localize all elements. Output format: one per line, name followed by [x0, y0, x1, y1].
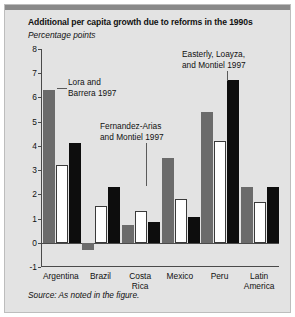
bar-group	[200, 49, 240, 267]
x-axis-category-label: Argentina	[41, 271, 81, 281]
y-axis-tick-label: 0	[32, 238, 37, 248]
bar	[267, 187, 279, 243]
bar	[69, 143, 81, 242]
bar	[148, 222, 160, 243]
bar-group	[239, 49, 279, 267]
y-axis-tick-label: 4	[32, 141, 37, 151]
figure-top-rule	[5, 5, 290, 10]
x-axis-category-label: Latin America	[239, 271, 279, 291]
x-axis-category-label: Peru	[200, 271, 240, 281]
annotation-leader-line	[227, 71, 228, 81]
y-axis-tick-label: 6	[32, 92, 37, 102]
chart-title: Additional per capita growth due to refo…	[28, 17, 253, 27]
annotation-leader-line	[146, 143, 147, 186]
figure-panel: Additional per capita growth due to refo…	[4, 4, 291, 313]
bar	[227, 80, 239, 242]
annotation-leader-line	[57, 88, 67, 89]
y-axis-tick-label: 3	[32, 165, 37, 175]
bar	[214, 141, 226, 243]
chart-annotation: Fernandez-Arias and Montiel 1997	[100, 121, 164, 143]
bar	[95, 206, 107, 242]
chart-annotation: Lora and Barrera 1997	[68, 77, 116, 99]
bar	[122, 225, 134, 243]
bar	[175, 199, 187, 243]
chart-annotation: Easterly, Loayza, and Montiel 1997	[182, 49, 246, 71]
bar	[135, 211, 147, 242]
x-axis-category-label: Costa Rica	[120, 271, 160, 291]
chart-subtitle: Percentage points	[28, 30, 96, 40]
bar-group	[120, 49, 160, 267]
bar	[82, 243, 94, 250]
y-axis-tick-label: 7	[32, 68, 37, 78]
y-axis-tick-label: 5	[32, 117, 37, 127]
bar	[108, 187, 120, 243]
bar	[43, 90, 55, 243]
y-axis-tick-mark	[38, 267, 41, 268]
bar	[201, 112, 213, 243]
x-axis-category-label: Brazil	[81, 271, 121, 281]
source-note: Source: As noted in the figure.	[28, 290, 139, 300]
bar	[241, 187, 253, 243]
bar	[162, 158, 174, 243]
bar	[254, 202, 266, 243]
bar	[188, 217, 200, 242]
bar	[56, 165, 68, 243]
y-axis-tick-label: 8	[32, 44, 37, 54]
bar-group	[160, 49, 200, 267]
y-axis-tick-label: 2	[32, 189, 37, 199]
y-axis-tick-label: -1	[30, 262, 37, 272]
y-axis-tick-label: 1	[32, 214, 37, 224]
x-axis-category-label: Mexico	[160, 271, 200, 281]
